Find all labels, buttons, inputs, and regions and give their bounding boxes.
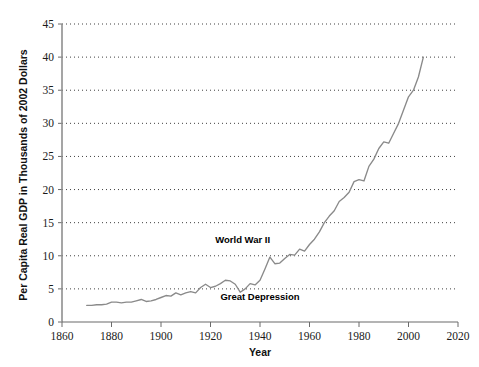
annotation-2: Great Depression [220,291,299,302]
y-tick-label-10: 10 [43,250,55,262]
gdp-line-chart: 051015202530354045 186018801900192019401… [0,0,479,367]
annotation-1: World War II [215,234,270,245]
y-tick-label-25: 25 [43,150,55,162]
x-axis-tick-labels: 186018801900192019401960198020002020 [51,330,470,342]
y-tick-label-45: 45 [43,18,55,30]
x-tick-label-1940: 1940 [249,330,272,342]
y-tick-label-35: 35 [43,84,55,96]
x-tick-label-1860: 1860 [51,330,74,342]
y-tick-label-40: 40 [43,51,55,63]
x-tick-label-2020: 2020 [447,330,470,342]
y-axis-title: Per Capita Real GDP in Thousands of 2002… [17,49,29,300]
x-axis-title: Year [249,346,271,358]
y-tick-label-20: 20 [43,184,55,196]
x-tick-label-1980: 1980 [348,330,371,342]
y-tick-label-0: 0 [48,316,54,328]
x-tick-label-1920: 1920 [199,330,222,342]
chart-background [0,0,479,367]
x-tick-label-1880: 1880 [100,330,123,342]
x-tick-label-2000: 2000 [397,330,420,342]
y-tick-label-5: 5 [48,283,54,295]
chart-figure: 051015202530354045 186018801900192019401… [0,0,479,367]
y-tick-label-15: 15 [43,217,55,229]
x-tick-label-1960: 1960 [298,330,321,342]
x-tick-label-1900: 1900 [150,330,173,342]
y-tick-label-30: 30 [43,117,55,129]
